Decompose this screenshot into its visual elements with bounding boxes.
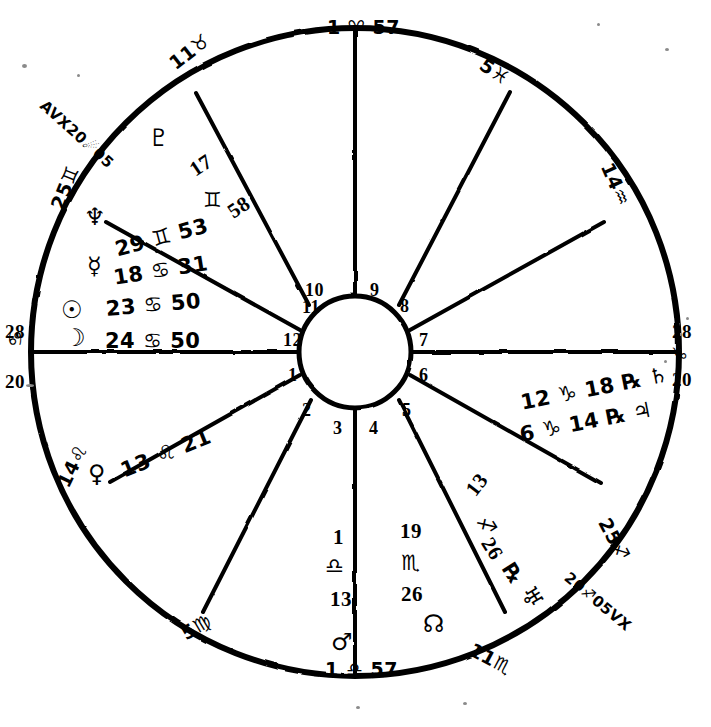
libra-cusp-minute: 13 <box>330 589 352 610</box>
cusp-line-9 <box>399 92 510 305</box>
house-number-5: 5 <box>402 401 412 419</box>
house-number-1: 1 <box>288 366 298 384</box>
house-11-text: 11 <box>302 297 320 317</box>
cusp-mc-text: 1 ♈ 57 <box>327 16 400 38</box>
cusp-ic-text: 1 ♎ 57 <box>325 658 398 680</box>
neptune-glyph: ♆ <box>84 205 106 229</box>
pluto-glyph: ♇ <box>148 126 170 150</box>
paper-speck <box>77 74 80 77</box>
mars-symbol: ♂ <box>331 628 353 656</box>
libra-cusp-sign-text: ♎ <box>325 554 344 578</box>
mercury-symbol: ☿ <box>87 252 102 280</box>
paper-speck <box>463 702 467 705</box>
sun-symbol: ☉ <box>61 296 83 324</box>
paper-speck <box>22 64 27 68</box>
scorpio-placement-degree-text: 19 <box>400 519 422 543</box>
house-8-text: 8 <box>400 296 410 316</box>
house-4-text: 4 <box>369 418 379 438</box>
asc-minute: 20 <box>5 371 25 392</box>
house-12-text: 12 <box>283 330 302 350</box>
house-7-text: 7 <box>419 330 429 350</box>
paper-speck <box>686 317 689 320</box>
asc-sign-glyph: ♋ <box>4 329 26 347</box>
house-number-9: 9 <box>370 281 380 299</box>
libra-cusp-sign: ♎ <box>325 556 344 577</box>
paper-speck <box>665 48 669 51</box>
sun-glyph: ☉ <box>61 298 83 322</box>
paper-speck <box>26 384 34 387</box>
cusp-line-3 <box>203 400 311 612</box>
house-2-text: 2 <box>302 400 312 420</box>
pluto-sign-text: ♊ <box>203 188 222 212</box>
libra-cusp-minute-text: 13 <box>330 587 352 611</box>
house-number-3: 3 <box>333 419 343 437</box>
dsc-sign-glyph: ♑ <box>671 343 689 365</box>
house-number-2: 2 <box>302 401 312 419</box>
house-9-text: 9 <box>370 280 380 300</box>
astrology-chart-wheel: 1 ♈ 57 1 ♎ 57 28 ♋ 20 28 ♑ 20 11♉ AVX20☄… <box>0 0 711 727</box>
lunar-node-glyph: ☊ <box>423 612 445 636</box>
cusp-line-8 <box>410 222 604 330</box>
house-1-text: 1 <box>288 365 298 385</box>
moon-symbol: ☽ <box>64 324 86 352</box>
paper-speck <box>356 706 360 709</box>
house-number-8: 8 <box>400 297 410 315</box>
mercury-glyph: ☿ <box>87 254 102 278</box>
lunar-node-symbol: ☊ <box>423 610 445 638</box>
libra-cusp-degree-text: 1 <box>333 525 344 549</box>
venus-glyph: ♀ <box>88 462 106 486</box>
pluto-sign-glyph: ♊ <box>203 190 222 211</box>
house-number-7: 7 <box>419 331 429 349</box>
cusp-label-dsc-deg: 28 <box>672 322 692 341</box>
scorpio-placement-sign-text: ♏ <box>401 551 420 575</box>
cusp-line-5 <box>399 400 505 612</box>
house-6-text: 6 <box>419 365 429 385</box>
cusp-label-asc-min: 20 <box>5 372 25 391</box>
house-number-4: 4 <box>369 419 379 437</box>
cusp-label-asc-sign: ♋ <box>6 329 25 347</box>
house-3-text: 3 <box>333 418 343 438</box>
house-number-11: 11 <box>302 298 320 316</box>
dsc-degree: 28 <box>672 321 692 342</box>
scorpio-placement-sign: ♏ <box>401 553 420 574</box>
paper-speck <box>597 23 600 26</box>
house-number-12: 12 <box>283 331 302 349</box>
scorpio-placement-minute-text: 26 <box>401 582 423 606</box>
moon-position: 24 ♋ 50 <box>105 331 200 352</box>
venus-symbol: ♀ <box>88 460 106 488</box>
house-number-6: 6 <box>419 366 429 384</box>
cusp-label-ic: 1 ♎ 57 <box>325 660 398 679</box>
cusp-label-dsc-min: 20 <box>672 370 692 389</box>
cusp-label-dsc-sign: ♑ <box>671 345 689 364</box>
dsc-minute: 20 <box>672 369 692 390</box>
scorpio-placement-degree: 19 <box>400 521 422 542</box>
moon-glyph: ☽ <box>64 326 86 350</box>
house-5-text: 5 <box>402 400 412 420</box>
libra-cusp-degree: 1 <box>333 527 344 548</box>
mars-glyph: ♂ <box>331 630 353 654</box>
cusp-label-mc: 1 ♈ 57 <box>327 18 400 37</box>
scorpio-placement-minute: 26 <box>401 584 423 605</box>
neptune-symbol: ♆ <box>84 203 106 231</box>
moon-position-text: 24 ♋ 50 <box>105 329 200 353</box>
pluto-symbol: ♇ <box>148 124 170 152</box>
